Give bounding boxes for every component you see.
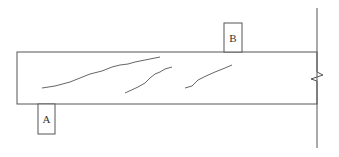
crack-1 [42, 57, 160, 88]
beam-diagram: A B [0, 0, 339, 157]
block-a-label: A [43, 113, 51, 125]
crack-2 [125, 67, 172, 93]
crack-3 [185, 65, 232, 88]
block-b: B [224, 23, 242, 52]
block-a: A [38, 104, 55, 134]
block-b-label: B [229, 32, 236, 44]
cracks [42, 57, 232, 93]
beam [17, 52, 317, 104]
